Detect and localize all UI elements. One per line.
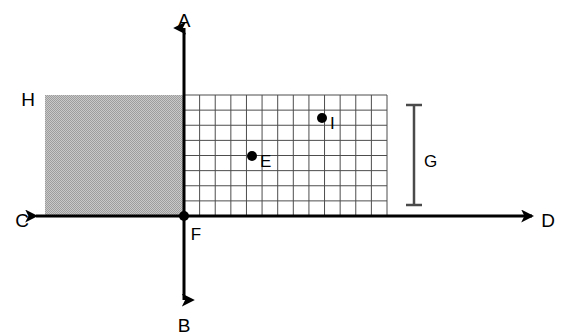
shaded-region-label-h: H [21, 89, 35, 110]
shaded-rectangle [45, 95, 184, 216]
shaded-region [45, 95, 184, 216]
dimension-bracket: G [406, 105, 437, 205]
axis-label-b: B [178, 315, 191, 335]
coordinate-plane-diagram: EI G A B C D F H [0, 0, 567, 335]
axis-label-a: A [178, 10, 191, 31]
point-dot-e [247, 151, 257, 161]
origin-label-f: F [191, 225, 201, 244]
origin-point-marker [179, 211, 189, 221]
axis-label-d: D [541, 210, 555, 231]
plotted-points: EI [247, 113, 335, 171]
dimension-label-g: G [424, 152, 437, 171]
grid-region [184, 95, 387, 216]
axis-label-c: C [15, 210, 29, 231]
point-label-e: E [260, 152, 271, 171]
point-dot-i [317, 113, 327, 123]
origin-dot [179, 211, 189, 221]
point-label-i: I [330, 114, 335, 133]
diagram-canvas: EI G A B C D F H [0, 0, 567, 335]
